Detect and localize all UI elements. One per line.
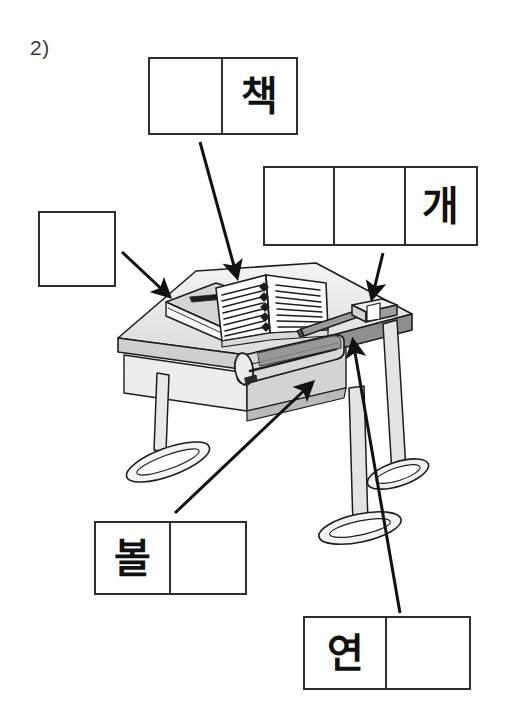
- answer-cell[interactable]: 볼: [96, 523, 171, 593]
- answer-cell[interactable]: [171, 523, 245, 593]
- desk-leg-left: [154, 373, 169, 452]
- answer-cell[interactable]: 책: [223, 59, 296, 133]
- desk-leg-center: [349, 386, 368, 526]
- answer-cell[interactable]: 연: [305, 618, 387, 688]
- answer-cell[interactable]: 개: [406, 168, 476, 244]
- answer-cell[interactable]: [150, 59, 223, 133]
- answer-box-gae[interactable]: 개: [263, 166, 478, 246]
- answer-cell[interactable]: [335, 168, 405, 244]
- eraser-sleeve: [367, 303, 380, 321]
- answer-box-chaek[interactable]: 책: [148, 57, 298, 135]
- desk-leg-right: [383, 320, 406, 474]
- answer-box-yeon[interactable]: 연: [303, 616, 471, 690]
- answer-cell[interactable]: [265, 168, 335, 244]
- answer-box-blank[interactable]: [38, 211, 116, 287]
- answer-box-bol[interactable]: 볼: [94, 521, 247, 595]
- answer-cell[interactable]: [387, 618, 469, 688]
- answer-cell[interactable]: [40, 213, 114, 285]
- worksheet-page: 2): [0, 0, 510, 722]
